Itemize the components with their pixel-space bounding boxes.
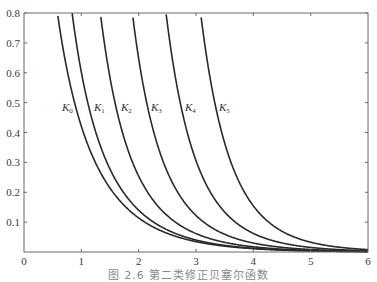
y-tick-label: 0.1 [6, 216, 20, 228]
curve-label-k4: K4 [184, 101, 196, 115]
curve-label-k0: K0 [61, 101, 73, 115]
x-tick-label: 4 [251, 255, 257, 266]
y-tick-label: 0.6 [6, 67, 20, 79]
y-tick-label: 0.5 [6, 97, 20, 109]
figure-caption: 图 2.6 第二类修正贝塞尔函数 [0, 266, 377, 282]
y-tick-label: 0.2 [6, 186, 20, 198]
curve-label-k5: K5 [218, 101, 230, 115]
x-axis-ticks: 0123456 [21, 13, 371, 266]
curve-label-k3: K3 [150, 101, 162, 115]
y-tick-label: 0.8 [6, 7, 20, 19]
curve-k2 [101, 17, 368, 252]
y-tick-label: 0.3 [6, 156, 20, 168]
x-tick-label: 0 [21, 255, 27, 266]
bessel-k-chart: 0123456 0.10.20.30.40.50.60.70.8 K0K1K2K… [0, 0, 377, 266]
x-tick-label: 1 [79, 255, 85, 266]
x-tick-label: 6 [365, 255, 371, 266]
curve-k0 [58, 16, 368, 252]
x-tick-label: 5 [308, 255, 314, 266]
curve-labels: K0K1K2K3K4K5 [61, 101, 230, 115]
y-tick-label: 0.7 [6, 37, 20, 49]
curves-group [58, 13, 368, 251]
y-axis-ticks: 0.10.20.30.40.50.60.70.8 [6, 7, 368, 228]
x-tick-label: 2 [136, 255, 142, 266]
curve-k1 [72, 13, 368, 251]
x-tick-label: 3 [193, 255, 199, 266]
curve-label-k1: K1 [93, 101, 105, 115]
y-tick-label: 0.4 [6, 127, 20, 139]
curve-label-k2: K2 [120, 101, 132, 115]
